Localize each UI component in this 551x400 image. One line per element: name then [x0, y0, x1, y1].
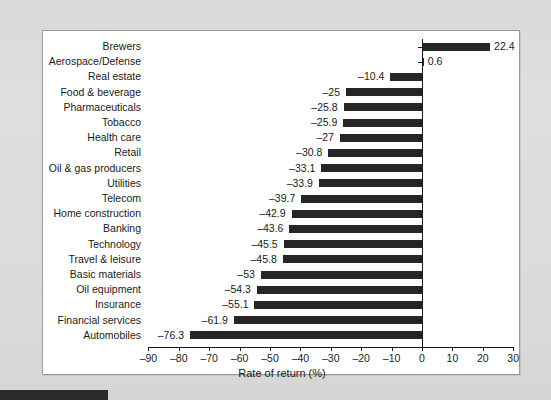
bar [321, 164, 422, 172]
x-axis-tick [422, 347, 423, 351]
bar-value-label: –33.1 [289, 161, 315, 176]
bar [319, 179, 422, 187]
x-axis-tick [240, 347, 241, 351]
category-label: Insurance [43, 297, 141, 312]
x-axis-tick [209, 347, 210, 351]
axis-tick [418, 229, 423, 230]
bar-value-label: –45.8 [251, 252, 277, 267]
bar-row: Financial services–61.9 [43, 313, 519, 328]
bar-value-label: –43.6 [257, 221, 283, 236]
x-axis-tick-label: 30 [493, 352, 533, 364]
category-label: Utilities [43, 176, 141, 191]
bar-row: Basic materials–53 [43, 267, 519, 282]
category-label: Telecom [43, 191, 141, 206]
bar [328, 149, 422, 157]
bar-value-label: –33.9 [287, 176, 313, 191]
bar-row: Travel & leisure–45.8 [43, 252, 519, 267]
x-axis-tick [513, 347, 514, 351]
category-label: Financial services [43, 313, 141, 328]
bar [292, 210, 422, 218]
bar [254, 301, 422, 309]
bar-row: Retail–30.8 [43, 145, 519, 160]
bar-row: Food & beverage–25 [43, 85, 519, 100]
bar-value-label: –53 [237, 267, 255, 282]
bar-row: Technology–45.5 [43, 237, 519, 252]
category-label: Technology [43, 237, 141, 252]
bottom-left-strip [0, 390, 108, 400]
x-axis-title: Rate of return (%) [43, 367, 521, 379]
axis-tick [418, 305, 423, 306]
category-label: Aerospace/Defense [43, 54, 141, 69]
bar-row: Utilities–33.9 [43, 176, 519, 191]
axis-tick [418, 290, 423, 291]
category-label: Automobiles [43, 328, 141, 343]
x-axis-tick [361, 347, 362, 351]
bar-row: Pharmaceuticals–25.8 [43, 100, 519, 115]
bar-row: Aerospace/Defense0.6 [43, 54, 519, 69]
x-axis-tick [148, 347, 149, 351]
axis-tick [418, 320, 423, 321]
bar-row: Brewers22.4 [43, 39, 519, 54]
x-axis-tick [483, 347, 484, 351]
bar [257, 286, 422, 294]
axis-tick [418, 62, 423, 63]
bar [283, 255, 422, 263]
category-label: Retail [43, 145, 141, 160]
axis-tick [418, 153, 423, 154]
axis-tick [418, 138, 423, 139]
bar-row: Insurance–55.1 [43, 297, 519, 312]
x-axis-tick [300, 347, 301, 351]
bar-value-label: –10.4 [358, 69, 384, 84]
bar [343, 119, 422, 127]
bar-value-label: 22.4 [494, 39, 514, 54]
bar [344, 103, 422, 111]
axis-tick [418, 183, 423, 184]
bar-value-label: –54.3 [225, 282, 251, 297]
bar-row: Banking–43.6 [43, 221, 519, 236]
bar-value-label: –45.5 [251, 237, 277, 252]
axis-tick [418, 107, 423, 108]
bar [289, 225, 422, 233]
bar-value-label: –27 [316, 130, 334, 145]
bar-value-label: –25.8 [311, 100, 337, 115]
bar [422, 43, 490, 51]
bar [340, 134, 422, 142]
bar-value-label: –42.9 [259, 206, 285, 221]
axis-tick [418, 244, 423, 245]
axis-tick [418, 199, 423, 200]
bar [261, 271, 422, 279]
bar-row: Telecom–39.7 [43, 191, 519, 206]
category-label: Oil equipment [43, 282, 141, 297]
bar-row: Oil equipment–54.3 [43, 282, 519, 297]
axis-tick [418, 335, 423, 336]
axis-tick [418, 259, 423, 260]
category-label: Travel & leisure [43, 252, 141, 267]
bar [346, 88, 422, 96]
x-axis-tick [179, 347, 180, 351]
axis-tick [418, 47, 423, 48]
axis-tick [418, 214, 423, 215]
bar-value-label: –30.8 [296, 145, 322, 160]
category-label: Basic materials [43, 267, 141, 282]
bar [301, 195, 422, 203]
bar-value-label: –55.1 [222, 297, 248, 312]
x-axis-tick [452, 347, 453, 351]
bar-row: Real estate–10.4 [43, 69, 519, 84]
category-label: Home construction [43, 206, 141, 221]
bar-row: Tobacco–25.9 [43, 115, 519, 130]
category-label: Food & beverage [43, 85, 141, 100]
bar-value-label: –25.9 [311, 115, 337, 130]
category-label: Real estate [43, 69, 141, 84]
category-label: Banking [43, 221, 141, 236]
bar [234, 316, 422, 324]
zero-axis-line [422, 39, 423, 347]
bar-value-label: –25 [322, 85, 340, 100]
bar [284, 240, 422, 248]
axis-tick [418, 275, 423, 276]
bar-row: Health care–27 [43, 130, 519, 145]
x-axis-tick [331, 347, 332, 351]
bar-value-label: –61.9 [202, 313, 228, 328]
category-label: Tobacco [43, 115, 141, 130]
category-label: Brewers [43, 39, 141, 54]
axis-tick [418, 77, 423, 78]
